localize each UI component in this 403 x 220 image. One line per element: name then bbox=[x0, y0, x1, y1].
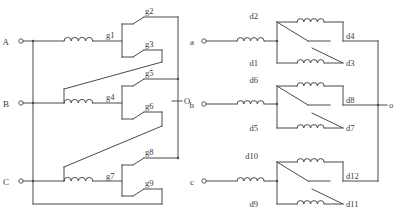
inductor-series-b bbox=[237, 101, 264, 104]
inductor-series-c bbox=[237, 178, 264, 181]
contact-label-g7: g7 bbox=[106, 171, 115, 181]
terminal-a-left[interactable] bbox=[19, 39, 64, 43]
junction-dot bbox=[32, 102, 34, 104]
terminal-b-right[interactable] bbox=[202, 101, 277, 107]
contact-g6[interactable] bbox=[133, 112, 162, 126]
inductor-series-a bbox=[237, 38, 264, 41]
terminal-label-b-right: b bbox=[190, 100, 195, 110]
contact-label-d2: d2 bbox=[250, 11, 259, 21]
contact-label-d11: d11 bbox=[346, 199, 358, 209]
circuit-canvas: A B C O g1 g2 g3 g4 g5 g6 g7 g8 g9 bbox=[0, 0, 403, 220]
terminal-ring-icon bbox=[19, 39, 23, 43]
terminal-c-right[interactable] bbox=[202, 178, 277, 184]
contact-label-d5: d5 bbox=[250, 123, 259, 133]
bridge-unit-2 bbox=[276, 83, 378, 128]
terminal-label-c: C bbox=[3, 177, 9, 187]
junction-dot bbox=[276, 40, 278, 42]
contact-label-g8: g8 bbox=[145, 147, 154, 157]
circuit-diagram: A B C O g1 g2 g3 g4 g5 g6 g7 g8 g9 bbox=[0, 0, 403, 220]
bridge2-bottom-inductor bbox=[297, 125, 324, 128]
terminal-ring-icon bbox=[202, 179, 206, 183]
contact-label-d9: d9 bbox=[250, 199, 259, 209]
contact-label-d4: d4 bbox=[346, 31, 355, 41]
changeover-contact-d2[interactable] bbox=[277, 22, 330, 41]
contact-label-g6: g6 bbox=[145, 101, 154, 111]
contact-g2[interactable] bbox=[133, 17, 178, 24]
junction-dot bbox=[32, 180, 34, 182]
bridge3-top-inductor bbox=[297, 159, 324, 162]
terminal-a-right[interactable] bbox=[202, 38, 277, 44]
terminal-ring-icon bbox=[202, 39, 206, 43]
junction-dot bbox=[177, 78, 179, 80]
changeover-contact-d10[interactable] bbox=[277, 162, 330, 181]
contact-g9[interactable] bbox=[133, 189, 162, 204]
bridge3-bottom-inductor bbox=[297, 201, 324, 204]
contact-label-g2: g2 bbox=[145, 6, 154, 16]
changeover-contact-d6[interactable] bbox=[277, 86, 330, 105]
contact-g8[interactable] bbox=[133, 158, 178, 165]
contact-label-g5: g5 bbox=[145, 68, 154, 78]
terminal-ring-icon bbox=[19, 101, 23, 105]
terminal-b-left[interactable] bbox=[19, 101, 64, 105]
junction-dot bbox=[276, 180, 278, 182]
contact-label-g1: g1 bbox=[106, 30, 115, 40]
contact-label-d8: d8 bbox=[346, 95, 355, 105]
junction-dot bbox=[276, 103, 278, 105]
contact-label-g9: g9 bbox=[145, 178, 154, 188]
contact-label-d7: d7 bbox=[346, 123, 355, 133]
right-circuit: a b c o d2 d1 d4 d3 d6 d5 d8 d7 d10 d9 d… bbox=[190, 11, 394, 209]
contact-label-d3: d3 bbox=[346, 58, 355, 68]
contact-label-d12: d12 bbox=[346, 171, 359, 181]
bridge-unit-1 bbox=[276, 19, 378, 63]
terminal-c-left[interactable] bbox=[19, 179, 64, 183]
junction-dot bbox=[177, 157, 179, 159]
terminal-ring-icon bbox=[202, 102, 206, 106]
contact-label-g4: g4 bbox=[106, 92, 115, 102]
junction-dot bbox=[32, 40, 34, 42]
contact-label-d10: d10 bbox=[245, 151, 258, 161]
contact-label-d6: d6 bbox=[250, 75, 259, 85]
bridge2-top-inductor bbox=[297, 83, 324, 86]
contact-g5[interactable] bbox=[133, 79, 178, 86]
bridge1-bottom-inductor bbox=[297, 60, 324, 63]
terminal-label-a-right: a bbox=[190, 37, 194, 47]
bridge-unit-3 bbox=[276, 159, 378, 204]
contact-g3[interactable] bbox=[133, 50, 162, 62]
terminal-ring-icon bbox=[19, 179, 23, 183]
terminal-label-a: A bbox=[3, 37, 10, 47]
bridge1-top-inductor bbox=[297, 19, 324, 22]
terminal-label-c-right: c bbox=[190, 177, 194, 187]
contact-label-d1: d1 bbox=[250, 58, 259, 68]
terminal-label-o-right: o bbox=[389, 100, 393, 110]
terminal-label-b: B bbox=[3, 99, 9, 109]
contact-label-g3: g3 bbox=[145, 39, 154, 49]
left-circuit: A B C O g1 g2 g3 g4 g5 g6 g7 g8 g9 bbox=[3, 6, 191, 204]
